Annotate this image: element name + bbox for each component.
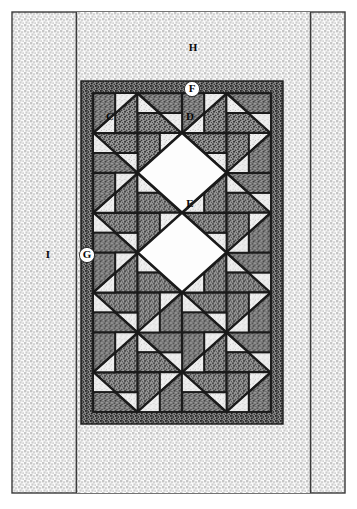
- label-G-circle: [79, 247, 94, 262]
- label-F-group: F: [184, 81, 199, 96]
- quilt-diagram-canvas: C D E F G H I: [0, 0, 357, 509]
- quilt-diagram: C D E F G H I: [0, 0, 357, 509]
- label-G-group: G: [79, 247, 94, 262]
- label-F-circle: [184, 81, 199, 96]
